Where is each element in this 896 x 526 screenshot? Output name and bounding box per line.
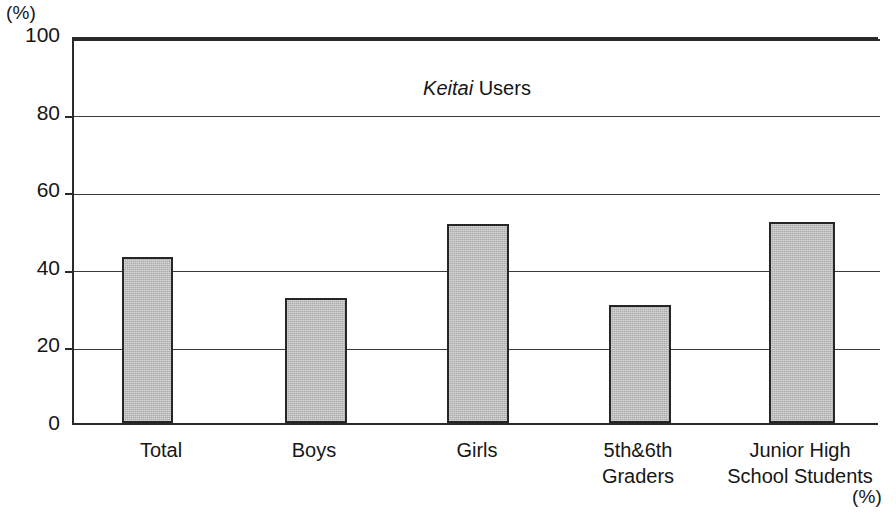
y-tick-60 — [65, 193, 74, 195]
bar-3 — [609, 305, 671, 423]
bar-1 — [285, 298, 347, 423]
plot-area: Keitai Users — [72, 37, 878, 425]
bottom-right-unit-label: (%) — [852, 486, 882, 508]
chart-title-italic: Keitai — [423, 77, 473, 99]
y-axis-unit-label: (%) — [6, 2, 36, 24]
bar-4 — [769, 222, 835, 423]
gridline-100 — [74, 39, 880, 41]
gridline-60 — [74, 194, 880, 195]
category-label-4: Junior High School Students — [705, 437, 895, 489]
y-tick-20 — [65, 348, 74, 350]
category-label-1: Boys — [219, 437, 409, 463]
y-tick-80 — [65, 116, 74, 118]
y-axis-label-100: 100 — [4, 23, 60, 47]
y-tick-40 — [65, 271, 74, 273]
y-axis-label-0: 0 — [4, 411, 60, 435]
y-axis-label-60: 60 — [4, 178, 60, 202]
chart-title: Keitai Users — [74, 77, 880, 100]
y-axis-label-80: 80 — [4, 101, 60, 125]
bar-0 — [122, 257, 173, 423]
bar-chart-figure: (%) (%) 100806040200 TotalBoysGirls5th&6… — [0, 0, 896, 526]
gridline-80 — [74, 116, 880, 117]
y-axis-label-40: 40 — [4, 256, 60, 280]
y-axis-label-20: 20 — [4, 333, 60, 357]
plot-right-edge-cap — [876, 37, 878, 41]
bar-2 — [447, 224, 509, 423]
